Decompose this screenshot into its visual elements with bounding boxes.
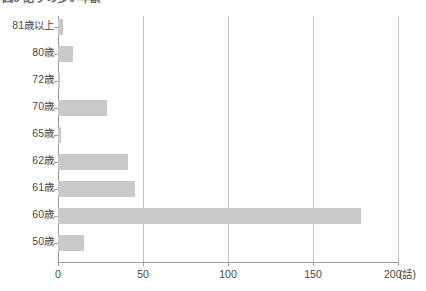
- y-axis-label-81-and-over: 81歳以上: [12, 19, 54, 31]
- bar-72: [58, 73, 60, 89]
- x-tick: [143, 262, 144, 266]
- bar-row: [58, 100, 398, 116]
- y-axis-label-61: 61歳: [32, 181, 54, 193]
- y-tick: [54, 189, 58, 190]
- bar-row: [58, 181, 398, 197]
- bar-row: [58, 127, 398, 143]
- y-tick: [54, 81, 58, 82]
- y-axis-label-80: 80歳: [32, 46, 54, 58]
- x-tick: [58, 262, 59, 266]
- y-tick: [54, 243, 58, 244]
- bar-row: [58, 235, 398, 251]
- gridline-200: [398, 16, 399, 262]
- x-tick: [313, 262, 314, 266]
- plot-area: [58, 16, 398, 262]
- y-axis-label-62: 62歳: [32, 154, 54, 166]
- bar-50: [58, 235, 84, 251]
- bar-60: [58, 208, 361, 224]
- bar-65: [58, 127, 61, 143]
- y-axis-label-65: 65歳: [32, 127, 54, 139]
- x-axis-label-150: 150: [304, 268, 322, 280]
- x-axis-label-0: 0: [55, 268, 61, 280]
- x-axis-label-100: 100: [219, 268, 237, 280]
- y-tick: [54, 216, 58, 217]
- x-axis-unit-label: (話): [399, 268, 416, 280]
- y-tick: [54, 108, 58, 109]
- x-tick: [228, 262, 229, 266]
- bar-row: [58, 19, 398, 35]
- x-axis-label-50: 50: [137, 268, 149, 280]
- bar-row: [58, 208, 398, 224]
- bar-chart: 81歳以上 80歳 72歳 70歳 65歳 62歳 61歳 60歳 50歳 0 …: [0, 0, 426, 291]
- y-axis-label-70: 70歳: [32, 100, 54, 112]
- y-axis-label-50: 50歳: [32, 235, 54, 247]
- bar-61: [58, 181, 135, 197]
- y-tick: [54, 135, 58, 136]
- bar-81-and-over: [58, 19, 63, 35]
- bar-80: [58, 46, 73, 62]
- bar-row: [58, 73, 398, 89]
- bar-row: [58, 46, 398, 62]
- y-tick: [54, 27, 58, 28]
- bar-70: [58, 100, 107, 116]
- y-tick: [54, 162, 58, 163]
- y-axis-label-72: 72歳: [32, 73, 54, 85]
- bar-row: [58, 154, 398, 170]
- y-axis-label-60: 60歳: [32, 208, 54, 220]
- x-tick: [398, 262, 399, 266]
- bar-62: [58, 154, 128, 170]
- y-tick: [54, 54, 58, 55]
